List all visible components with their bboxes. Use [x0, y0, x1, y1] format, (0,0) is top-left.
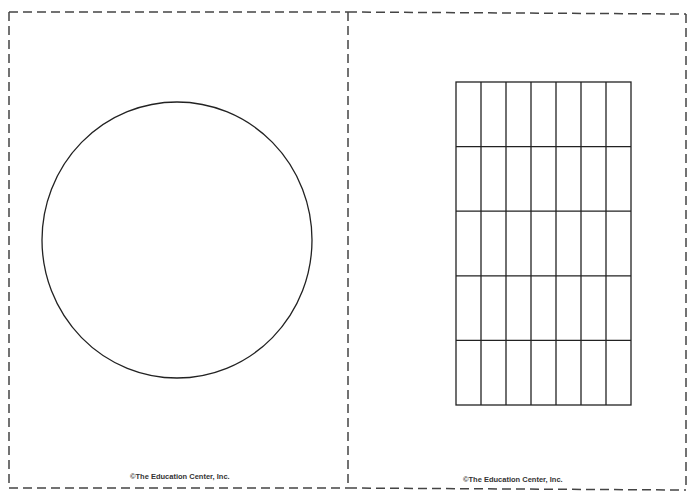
copyright-credit-right: ©The Education Center, Inc. [463, 475, 563, 484]
left-card-cut-line [9, 12, 348, 488]
copyright-credit-left: ©The Education Center, Inc. [130, 472, 230, 481]
printable-page [0, 0, 692, 496]
grid-shape [456, 82, 631, 405]
circle-shape [42, 102, 312, 378]
right-card-cut-line [348, 12, 686, 490]
